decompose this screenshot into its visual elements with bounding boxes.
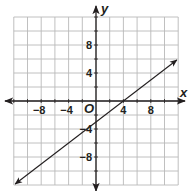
y-tick-label: −8 — [79, 151, 92, 163]
origin-label: O — [84, 101, 94, 116]
x-tick-label: −8 — [33, 104, 46, 116]
x-tick-label: 4 — [120, 104, 127, 116]
axes — [5, 6, 185, 191]
x-tick-label: 8 — [148, 104, 154, 116]
y-tick-label: 4 — [86, 67, 93, 79]
coordinate-plane: −8−44884−4−8 x y O — [0, 0, 188, 191]
x-axis-label: x — [179, 85, 188, 100]
y-tick-label: 8 — [86, 39, 92, 51]
y-axis-label: y — [100, 1, 109, 16]
x-tick-label: −4 — [60, 104, 73, 116]
